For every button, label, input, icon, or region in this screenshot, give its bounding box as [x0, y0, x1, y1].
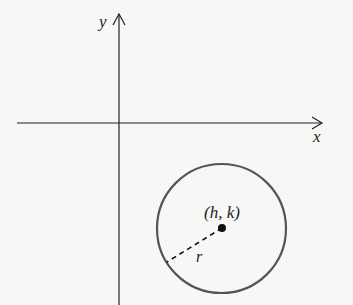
center-label: (h, k): [204, 203, 240, 222]
y-axis-label: y: [97, 12, 107, 31]
radius-label: r: [196, 248, 203, 265]
circle-diagram: x y (h, k) r: [0, 0, 353, 305]
diagram-canvas: x y (h, k) r: [0, 0, 353, 305]
x-axis-label: x: [312, 127, 321, 146]
radius-line: [167, 228, 222, 262]
x-axis: [17, 117, 322, 129]
y-axis: [113, 14, 125, 305]
center-point-icon: [218, 224, 226, 232]
